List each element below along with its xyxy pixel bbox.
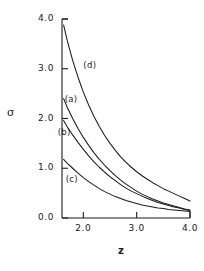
chart-figure: σ z 4.03.02.01.00.0 2.03.04.0 (d)(a)(b)(… (0, 0, 204, 271)
curve-d (64, 25, 190, 201)
y-tick-label: 2.0 (22, 113, 54, 123)
y-tick-label: 3.0 (22, 63, 54, 73)
y-tick-label: 4.0 (22, 13, 54, 23)
plot-area (0, 0, 204, 271)
curve-label-a: (a) (65, 94, 78, 104)
x-tick-label: 3.0 (122, 223, 152, 233)
curve-a (64, 99, 190, 210)
x-tick-marks (83, 212, 190, 218)
curve-label-c: (c) (66, 174, 78, 184)
curve-b (64, 120, 190, 210)
curve-label-d: (d) (83, 60, 96, 70)
y-tick-label: 1.0 (22, 162, 54, 172)
curve-label-b: (b) (58, 127, 71, 137)
curve-c (64, 159, 190, 211)
x-axis-title: z (118, 245, 124, 256)
data-curves (64, 25, 190, 212)
x-tick-label: 2.0 (68, 223, 98, 233)
y-axis-title: σ (7, 106, 15, 119)
y-tick-marks (62, 19, 68, 218)
x-tick-label: 4.0 (175, 223, 204, 233)
y-tick-label: 0.0 (22, 212, 54, 222)
